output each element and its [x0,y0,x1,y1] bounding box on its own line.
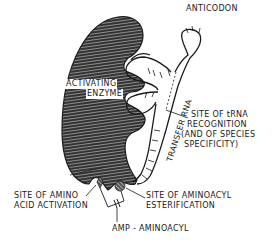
enzyme-label-line1: ACTIVATING [65,79,117,89]
recognition-label-line2: RECOGNITION [187,120,247,130]
enzyme-label-line2: ENZYME [86,89,123,99]
activating-enzyme-shape [62,17,145,190]
ester-pointer [126,188,145,198]
amino-site-label-line1: SITE OF AMINO [14,191,78,201]
recognition-label-line4: SPECIFICITY) [184,140,238,150]
amp-aminoacyl-label: AMP - AMINOACYL [112,224,189,234]
ester-site-label-line2: ESTERIFICATION [146,201,215,211]
recognition-label-line1: SITE OF tRNA [191,110,248,120]
aminoacyl-site-icon [115,181,125,191]
amino-site-label-line2: ACID ACTIVATION [14,201,88,211]
amino-pointer [86,185,96,196]
anticodon-label: ANTICODON [186,4,238,14]
recognition-label-line3: (AND OF SPECIES [181,130,255,140]
ester-site-label-line1: SITE OF AMINOACYL [146,191,231,201]
